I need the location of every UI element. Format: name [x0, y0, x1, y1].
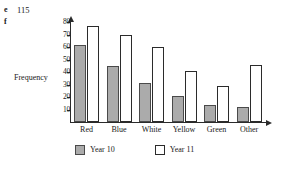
- y-tick-label: 60: [54, 43, 70, 51]
- legend-label-year-10: Year 10: [90, 145, 115, 155]
- y-tick-label: 10: [54, 106, 70, 114]
- bar-white-year-11: [152, 47, 164, 122]
- legend-swatch-year-10: [75, 145, 85, 155]
- bar-blue-year-11: [120, 35, 132, 123]
- exercise-number: 115: [17, 5, 29, 15]
- bar-other-year-10: [237, 107, 249, 122]
- bar-red-year-11: [87, 26, 99, 122]
- bar-green-year-11: [217, 86, 229, 122]
- bar-yellow-year-10: [172, 96, 184, 122]
- y-tick-label: 80: [54, 18, 70, 26]
- bar-other-year-11: [250, 65, 262, 123]
- y-tick-label: 30: [54, 81, 70, 89]
- bar-blue-year-10: [107, 66, 119, 122]
- y-axis-title: Frequency: [14, 73, 48, 82]
- bar-chart: 1020304050607080 RedBlueWhiteYellowGreen…: [70, 22, 275, 122]
- legend-label-year-11: Year 11: [170, 145, 194, 155]
- legend-item-year-10: Year 10: [75, 145, 115, 155]
- legend-swatch-year-11: [155, 145, 165, 155]
- chart-page: e 115 f Frequency 1020304050607080 RedBl…: [0, 0, 295, 170]
- bar-white-year-10: [139, 83, 151, 122]
- exercise-marker-e: e: [4, 5, 8, 14]
- y-tick-label: 70: [54, 31, 70, 39]
- legend-item-year-11: Year 11: [155, 145, 194, 155]
- y-axis-line: [70, 22, 71, 122]
- chart-legend: Year 10 Year 11: [75, 145, 194, 155]
- y-tick-label: 20: [54, 93, 70, 101]
- y-tick-label: 50: [54, 56, 70, 64]
- bar-green-year-10: [204, 105, 216, 123]
- bar-red-year-10: [74, 45, 86, 123]
- bar-yellow-year-11: [185, 71, 197, 122]
- exercise-marker-f: f: [4, 17, 7, 26]
- y-tick-label: 40: [54, 68, 70, 76]
- x-axis-line: [70, 122, 267, 123]
- x-category-label-other: Other: [227, 125, 271, 134]
